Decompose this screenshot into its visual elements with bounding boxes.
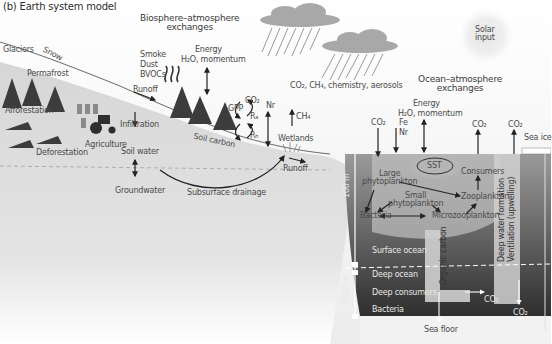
deep-water-formation-label: Deep water formation (498, 178, 506, 262)
runoff-lower-label: Runoff (283, 165, 308, 173)
permafrost-label: Permafrost (27, 70, 68, 78)
runoff-label: Runoff (133, 86, 158, 94)
land-co2-label: CO₂ (245, 97, 260, 105)
glaciers-label: Glaciers (3, 46, 34, 54)
soil-water-label: Soil water (121, 148, 159, 156)
atmosphere-chemistry-label: CO₂, CH₄, chemistry, aerosols (290, 82, 402, 90)
large-phytoplankton-label: Large phytoplankton (362, 170, 417, 187)
consumers-label: Consumers (461, 168, 504, 176)
afforestation-label: Afforestation (5, 107, 54, 115)
depth-3700m-label: 3700 m (343, 276, 351, 306)
small-phytoplankton-label: Small phytoplankton (388, 192, 443, 209)
co2-ice-label: CO₂ (508, 121, 523, 129)
co2-consumers-label: CO₂ (472, 121, 487, 129)
ventilation-label: Ventilation (upwelling) (508, 177, 516, 262)
subsurface-drainage-label: Subsurface drainage (187, 189, 266, 197)
fe-label: Fe (399, 119, 408, 127)
ch4-label: CH₄ (296, 113, 310, 121)
deforestation-label: Deforestation (36, 149, 88, 157)
bacteria-deep-label: Bacteria (372, 306, 404, 314)
land-h2o-momentum-label: H₂O, momentum (181, 56, 245, 64)
ocean-heading: Ocean–atmosphere exchanges (418, 75, 502, 94)
bacteria-surface-label: Bacteria (360, 212, 392, 220)
organic-carbon-label: Organic carbon (440, 227, 448, 286)
co2-deep1-label: CO₂ (484, 296, 499, 304)
diagram-title: (b) Earth system model (3, 2, 116, 13)
solar-input-label: Solar input (475, 26, 495, 43)
ocean-h2o-momentum-label: H₂O, momentum (398, 110, 462, 118)
land-energy-label: Energy (195, 46, 222, 54)
deep-consumers-label: Deep consumers (372, 289, 437, 297)
sea-floor-label: Sea floor (424, 326, 458, 334)
rh-label: Rₕ (250, 132, 258, 140)
wetlands-label: Wetlands (278, 135, 313, 143)
sea-ice-label: Sea ice (524, 134, 552, 142)
ra-label: Rₐ (250, 113, 258, 121)
surface-ocean-label: Surface ocean (372, 247, 427, 255)
bvocs-label: BVOCs (140, 71, 166, 79)
ocean-energy-label: Energy (413, 100, 440, 108)
dust-label: Dust (140, 61, 158, 69)
deep-ocean-label: Deep ocean (372, 271, 418, 279)
smoke-label: Smoke (140, 51, 166, 59)
infiltration-label: Infiltration (120, 121, 159, 129)
depth-100m-label: 100 m (343, 173, 351, 198)
co2-deep2-label: CO₂ (513, 309, 528, 317)
ocean-nr-label: Nr (399, 129, 408, 137)
land-nr-label: Nr (266, 102, 275, 110)
biosphere-heading: Biosphere–atmosphere exchanges (140, 14, 239, 33)
gpp-label: GPP (228, 105, 243, 113)
ocean-co2-left-label: CO₂ (371, 119, 386, 127)
groundwater-label: Groundwater (115, 187, 165, 195)
microzooplankton-label: Microzooplankton (432, 212, 499, 220)
sst-label: SST (427, 162, 441, 170)
